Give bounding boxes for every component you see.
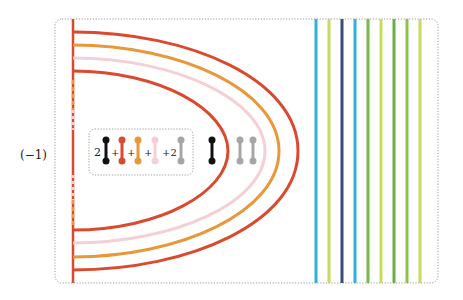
legend-coef-first: 2 [94, 146, 101, 159]
diagram-canvas: (−1) 2 + [0, 0, 463, 300]
dumbbell-gray-free-2-icon [250, 137, 257, 165]
dumbbell-gray-free-1-icon [237, 137, 244, 165]
legend-plus-2: + [127, 147, 135, 158]
legend-plus-3: + [144, 147, 152, 158]
legend-coef-last: +2 [162, 147, 177, 158]
legend-plus-1: + [111, 147, 119, 158]
prefix-label: (−1) [20, 148, 47, 162]
vertical-lines [316, 19, 420, 283]
dumbbell-black-free-icon [209, 137, 216, 165]
legend-box: 2 + + + +2 [89, 129, 193, 175]
